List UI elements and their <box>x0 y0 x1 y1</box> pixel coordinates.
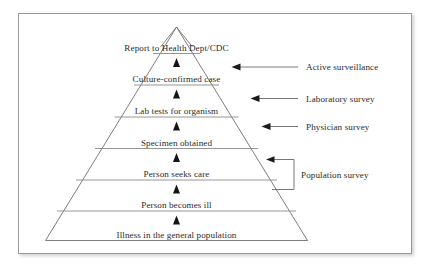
annotation-label-laboratory-survey: Laboratory survey <box>306 94 375 104</box>
pyramid-level-labels: Report to Health Dept/CDC Culture-confir… <box>117 43 237 240</box>
up-triangle-icon-6 <box>173 216 180 225</box>
level-label-person-seeks-care: Person seeks care <box>144 169 210 179</box>
up-triangle-icon-3 <box>173 122 180 131</box>
level-label-specimen-obtained: Specimen obtained <box>141 138 212 148</box>
up-triangle-icon-5 <box>173 185 180 194</box>
annotation-active-surveillance: Active surveillance <box>232 62 379 72</box>
level-label-illness-general-population: Illness in the general population <box>117 230 237 240</box>
surveillance-pyramid-diagram: Report to Health Dept/CDC Culture-confir… <box>0 0 429 272</box>
up-triangle-icon-1 <box>173 58 180 67</box>
annotation-physician-survey: Physician survey <box>262 122 370 132</box>
annotation-label-population-survey: Population survey <box>301 170 369 180</box>
arrow-left-icon-physician-survey <box>262 123 271 130</box>
arrow-left-icon-laboratory-survey <box>251 95 260 102</box>
arrow-left-icon-population-survey <box>266 156 275 162</box>
level-label-person-becomes-ill: Person becomes ill <box>141 200 212 210</box>
population-survey-bracket <box>272 160 294 190</box>
annotation-laboratory-survey: Laboratory survey <box>251 94 375 104</box>
figure-root: Report to Health Dept/CDC Culture-confir… <box>0 0 429 272</box>
up-triangle-icon-2 <box>173 90 180 99</box>
level-label-culture-confirmed-case: Culture-confirmed case <box>133 74 221 84</box>
up-triangle-icon-4 <box>173 153 180 162</box>
annotation-label-physician-survey: Physician survey <box>306 122 370 132</box>
annotation-label-active-surveillance: Active surveillance <box>306 62 378 72</box>
arrow-left-icon-active-surveillance <box>232 64 241 71</box>
level-label-lab-tests-for-organism: Lab tests for organism <box>135 106 219 116</box>
level-label-report-to-health-dept: Report to Health Dept/CDC <box>124 43 228 53</box>
annotation-population-survey: Population survey <box>266 156 369 189</box>
